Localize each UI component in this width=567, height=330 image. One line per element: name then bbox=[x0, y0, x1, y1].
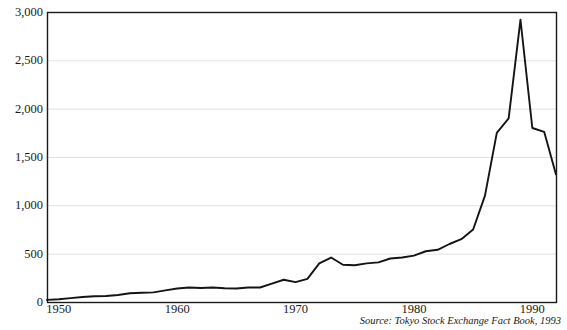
x-tick-label: 1980 bbox=[401, 303, 426, 316]
data-line-0 bbox=[47, 20, 556, 300]
x-tick-label: 1960 bbox=[165, 303, 190, 316]
gridlines bbox=[47, 13, 556, 255]
x-tick-label: 1950 bbox=[46, 303, 71, 316]
x-tick-label: 1990 bbox=[520, 303, 545, 316]
chart-plot-area bbox=[0, 0, 567, 330]
x-tick-label: 1970 bbox=[283, 303, 308, 316]
data-series-group bbox=[47, 20, 556, 300]
chart-figure: 3,0002,5002,0001,5001,0005000 1950196019… bbox=[0, 0, 567, 330]
source-note: Source: Tokyo Stock Exchange Fact Book, … bbox=[360, 316, 561, 327]
